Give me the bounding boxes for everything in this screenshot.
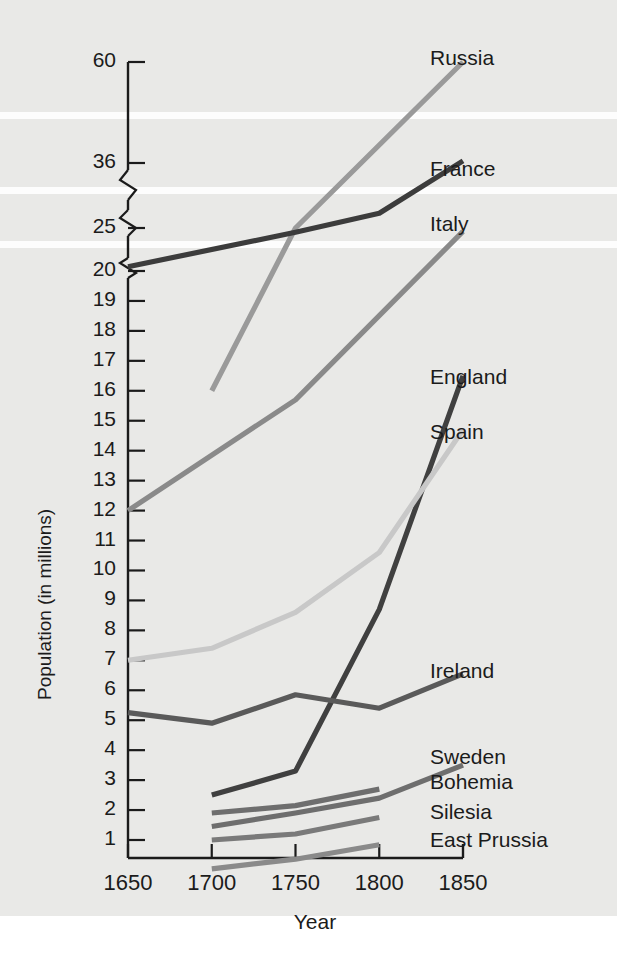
x-tick-label: 1850 (421, 870, 505, 896)
y-tick-label: 10 (70, 556, 116, 580)
y-tick-label: 6 (70, 676, 116, 700)
y-tick-label: 3 (70, 766, 116, 790)
y-tick-label: 36 (70, 149, 116, 173)
x-tick-label: 1650 (86, 870, 170, 896)
series-line-france (128, 161, 463, 267)
y-tick-label: 17 (70, 347, 116, 371)
y-tick-label: 16 (70, 377, 116, 401)
y-tick-label: 9 (70, 586, 116, 610)
axis-break-zigzag-icon (120, 170, 136, 200)
series-line-ireland (128, 674, 463, 723)
y-tick-label: 14 (70, 437, 116, 461)
y-tick-label: 25 (70, 214, 116, 238)
series-line-spain (128, 430, 463, 661)
y-tick-label: 8 (70, 616, 116, 640)
series-label-east-prussia: East Prussia (430, 828, 548, 852)
series-label-france: France (430, 157, 495, 181)
x-tick-label: 1700 (170, 870, 254, 896)
y-tick-label: 18 (70, 317, 116, 341)
x-tick-label: 1750 (254, 870, 338, 896)
series-label-england: England (430, 365, 507, 389)
y-tick-label: 7 (70, 646, 116, 670)
y-tick-label: 11 (70, 527, 116, 551)
chart-page: 6036252019181716151413121110987654321 16… (0, 0, 617, 964)
y-tick-label: 19 (70, 287, 116, 311)
axis-break-zigzag-icon (120, 210, 136, 236)
y-tick-label: 5 (70, 706, 116, 730)
y-tick-label: 2 (70, 796, 116, 820)
x-tick-label: 1800 (337, 870, 421, 896)
y-tick-label: 4 (70, 736, 116, 760)
chart-axes (120, 62, 463, 858)
series-label-silesia: Silesia (430, 800, 492, 824)
series-line-italy (128, 231, 463, 510)
chart-lines (128, 62, 463, 869)
y-axis-title: Population (in millions) (34, 509, 56, 700)
series-label-ireland: Ireland (430, 659, 494, 683)
series-line-russia (212, 62, 463, 391)
series-label-spain: Spain (430, 420, 484, 444)
series-label-sweden: Sweden (430, 745, 506, 769)
y-tick-label: 20 (70, 257, 116, 281)
y-tick-label: 12 (70, 497, 116, 521)
series-label-russia: Russia (430, 46, 494, 70)
y-tick-label: 15 (70, 407, 116, 431)
series-label-bohemia: Bohemia (430, 770, 513, 794)
series-label-italy: Italy (430, 212, 469, 236)
y-tick-label: 60 (70, 48, 116, 72)
x-axis-title: Year (215, 910, 415, 934)
y-tick-label: 13 (70, 467, 116, 491)
y-tick-label: 1 (70, 826, 116, 850)
